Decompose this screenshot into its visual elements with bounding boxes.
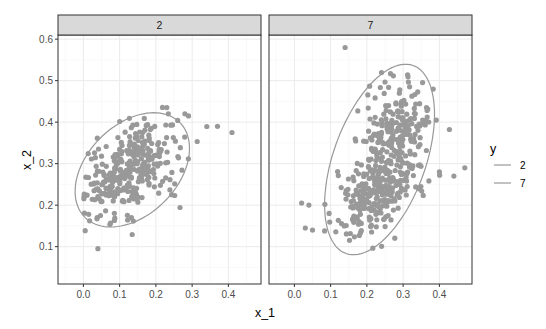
data-point <box>382 91 387 96</box>
data-point <box>144 123 149 128</box>
data-point <box>195 139 200 144</box>
data-point <box>413 111 418 116</box>
data-point <box>359 228 364 233</box>
data-point <box>414 124 419 129</box>
data-point <box>169 170 174 175</box>
data-point <box>156 191 161 196</box>
x-axis-left: 0.00.10.20.30.4 <box>76 284 235 300</box>
data-point <box>379 123 384 128</box>
data-point <box>126 151 131 156</box>
data-point <box>112 211 117 216</box>
data-point <box>387 124 392 129</box>
data-point <box>380 192 385 197</box>
data-point <box>404 119 409 124</box>
data-point <box>403 130 408 135</box>
data-point <box>310 228 315 233</box>
data-point <box>136 179 141 184</box>
data-point <box>143 153 148 158</box>
data-point <box>132 142 137 147</box>
data-point <box>164 105 169 110</box>
data-point <box>127 184 132 189</box>
data-point <box>303 225 308 230</box>
data-point <box>412 106 417 111</box>
data-point <box>112 166 117 171</box>
data-point <box>97 188 102 193</box>
data-point <box>127 174 132 179</box>
data-point <box>376 131 381 136</box>
data-point <box>373 148 378 153</box>
data-point <box>333 229 338 234</box>
legend: y 2 7 <box>490 142 526 189</box>
data-point <box>383 116 388 121</box>
data-point <box>142 128 147 133</box>
x-tick-label: 0.4 <box>221 289 235 300</box>
data-point <box>364 197 369 202</box>
data-point <box>152 175 157 180</box>
data-point <box>375 210 380 215</box>
data-point <box>121 186 126 191</box>
data-point <box>335 169 340 174</box>
data-point <box>403 153 408 158</box>
data-point <box>327 220 332 225</box>
data-point <box>418 135 423 140</box>
data-point <box>388 217 393 222</box>
data-point <box>363 181 368 186</box>
data-point <box>354 216 359 221</box>
x-tick-label: 0.4 <box>432 289 446 300</box>
data-point <box>131 154 136 159</box>
data-point <box>357 208 362 213</box>
data-point <box>186 113 191 118</box>
data-point <box>371 188 376 193</box>
data-point <box>393 168 398 173</box>
data-point <box>145 146 150 151</box>
x-axis-right: 0.00.10.20.30.4 <box>287 284 446 300</box>
data-point <box>135 195 140 200</box>
data-point <box>344 231 349 236</box>
data-point <box>382 79 387 84</box>
data-point <box>361 139 366 144</box>
data-point <box>299 201 304 206</box>
data-point <box>104 164 109 169</box>
data-point <box>380 147 385 152</box>
data-point <box>96 146 101 151</box>
data-point <box>397 148 402 153</box>
data-point <box>149 141 154 146</box>
data-point <box>343 191 348 196</box>
data-point <box>404 112 409 117</box>
data-point <box>177 205 182 210</box>
data-point <box>406 79 411 84</box>
data-point <box>336 218 341 223</box>
data-point <box>412 152 417 157</box>
data-point <box>399 172 404 177</box>
data-point <box>101 180 106 185</box>
data-point <box>373 183 378 188</box>
data-point <box>107 172 112 177</box>
data-point <box>93 155 98 160</box>
data-point <box>95 246 100 251</box>
x-tick-label: 0.1 <box>113 289 127 300</box>
data-point <box>102 172 107 177</box>
data-point <box>322 228 327 233</box>
data-point <box>139 134 144 139</box>
data-point <box>154 153 159 158</box>
data-point <box>132 167 137 172</box>
data-point <box>165 149 170 154</box>
data-point <box>407 165 412 170</box>
data-point <box>347 238 352 243</box>
data-point <box>385 187 390 192</box>
data-point <box>405 184 410 189</box>
data-point <box>176 155 181 160</box>
data-point <box>371 133 376 138</box>
data-point <box>367 158 372 163</box>
data-point <box>163 160 168 165</box>
data-point <box>381 217 386 222</box>
y-axis: 0.10.20.30.40.50.6 <box>39 34 58 253</box>
data-point <box>380 140 385 145</box>
data-point <box>342 223 347 228</box>
data-point <box>350 204 355 209</box>
data-point <box>178 145 183 150</box>
data-point <box>384 199 389 204</box>
x-tick-label: 0.2 <box>149 289 163 300</box>
data-point <box>386 213 391 218</box>
data-point <box>447 127 452 132</box>
